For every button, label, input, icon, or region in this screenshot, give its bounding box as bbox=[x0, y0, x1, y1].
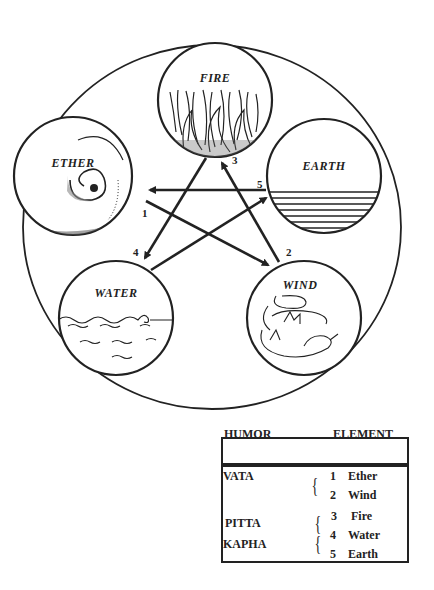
humor-element-legend: HUMOR ELEMENT VATA { 1 Ether 2 Wind PITT… bbox=[221, 418, 413, 568]
arrow-number-3: 3 bbox=[232, 154, 238, 166]
legend-humor-kapha: KAPHA bbox=[223, 537, 266, 552]
element-ether: ETHER bbox=[14, 117, 132, 245]
label-ether: ETHER bbox=[50, 156, 94, 170]
element-water: WATER bbox=[58, 261, 175, 375]
element-wind: WIND bbox=[247, 261, 361, 375]
legend-box: VATA { 1 Ether 2 Wind PITTA { 3 Fire KAP… bbox=[221, 437, 409, 563]
five-elements-diagram: FIRE ETHER EARTH bbox=[0, 0, 434, 420]
element-earth: EARTH bbox=[260, 119, 390, 233]
brace-kapha: { bbox=[314, 532, 321, 555]
label-wind: WIND bbox=[283, 278, 318, 292]
arrow-number-4: 4 bbox=[133, 246, 139, 258]
legend-element-fire: Fire bbox=[351, 509, 372, 524]
label-water: WATER bbox=[95, 286, 138, 300]
legend-num-2: 2 bbox=[330, 488, 336, 503]
arrow-number-2: 2 bbox=[286, 246, 292, 258]
arrow-group bbox=[145, 158, 279, 270]
label-fire: FIRE bbox=[199, 71, 231, 85]
legend-num-1: 1 bbox=[330, 469, 336, 484]
legend-element-wind: Wind bbox=[348, 488, 376, 503]
arrow-water-to-earth bbox=[151, 198, 266, 270]
legend-element-earth: Earth bbox=[348, 547, 378, 562]
legend-num-5: 5 bbox=[330, 547, 336, 562]
brace-vata: { bbox=[311, 474, 318, 497]
legend-humor-vata: VATA bbox=[223, 469, 254, 484]
legend-num-4: 4 bbox=[330, 528, 336, 543]
arrow-number-1: 1 bbox=[142, 207, 148, 219]
legend-divider bbox=[223, 463, 407, 467]
legend-element-ether: Ether bbox=[348, 469, 377, 484]
element-fire: FIRE bbox=[158, 43, 272, 160]
arrow-number-5: 5 bbox=[257, 178, 263, 190]
label-earth: EARTH bbox=[301, 159, 345, 173]
arrow-fire-to-water bbox=[145, 158, 206, 258]
legend-humor-pitta: PITTA bbox=[225, 516, 261, 531]
legend-num-3: 3 bbox=[331, 509, 337, 524]
legend-element-water: Water bbox=[348, 528, 380, 543]
